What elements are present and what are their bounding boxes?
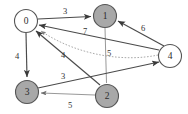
graph-figure: 3 4 6 7 5 4 5 3 0 1 2 (0, 0, 188, 114)
edge-4-to-0-dotted-path (41, 31, 158, 58)
edge-weight-4-0-dotted: 5 (107, 48, 111, 58)
edge-0-to-3 (26, 33, 27, 77)
edge-2-to-3 (41, 93, 95, 95)
node-4[interactable]: 4 (159, 45, 182, 68)
node-1[interactable]: 1 (94, 5, 117, 28)
node-layer: 0 1 2 3 4 (15, 5, 182, 108)
edge-2-to-3-line (41, 93, 95, 95)
edge-weight-0-1: 3 (63, 6, 67, 16)
node-0-label: 0 (24, 16, 29, 26)
node-0[interactable]: 0 (15, 10, 38, 33)
edge-weight-4-1: 6 (141, 23, 145, 33)
node-4-label: 4 (168, 51, 173, 61)
edge-weight-3-4: 3 (61, 71, 65, 81)
node-2-label: 2 (105, 91, 110, 101)
edge-0-to-1 (38, 17, 91, 20)
edge-0-to-3-line (26, 33, 27, 77)
edge-weight-2-3: 5 (68, 100, 72, 110)
edge-4-to-0-dotted (41, 31, 158, 58)
node-3-label: 3 (25, 87, 30, 97)
node-1-label: 1 (103, 11, 108, 21)
edge-0-to-1-line (38, 17, 91, 20)
node-2[interactable]: 2 (96, 85, 119, 108)
edge-weight-4-0: 7 (83, 26, 87, 36)
edge-weight-0-3: 4 (15, 51, 20, 61)
graph-canvas: 3 4 6 7 5 4 5 3 0 1 2 (0, 0, 188, 114)
node-3[interactable]: 3 (16, 81, 39, 104)
